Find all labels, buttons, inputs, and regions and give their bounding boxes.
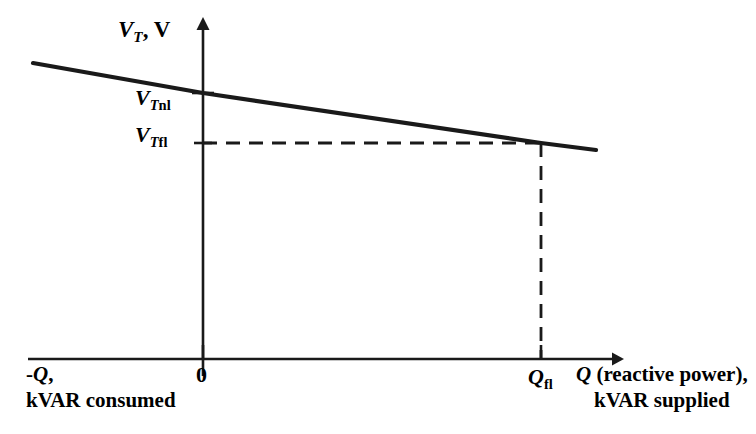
- negative-q-variable: Q: [33, 362, 48, 386]
- vt-no-load-label: VTnl: [135, 87, 171, 112]
- voltage-reactive-power-diagram: VT, V VTnl VTfl 0 Qfl -Q, kVAR consumed …: [0, 0, 756, 434]
- y-axis-title-variable: V: [118, 17, 133, 42]
- negative-q-caption-line2: kVAR consumed: [26, 390, 176, 411]
- vt-fl-subscript-fl: fl: [159, 134, 168, 150]
- positive-q-variable: Q: [576, 362, 591, 386]
- y-axis-title: VT, V: [118, 18, 170, 44]
- positive-q-caption-line1: (reactive power),: [591, 362, 747, 386]
- droop-characteristic-line: [33, 63, 596, 150]
- axes-group: [28, 17, 624, 376]
- y-axis-title-subscript: T: [133, 28, 142, 45]
- y-axis-title-separator: ,: [143, 17, 154, 42]
- vt-nl-variable: V: [135, 85, 150, 110]
- qfl-variable: Q: [528, 364, 544, 389]
- positive-q-caption-line2: kVAR supplied: [594, 390, 748, 411]
- negative-q-comma: ,: [48, 362, 53, 386]
- qfl-subscript: fl: [544, 376, 553, 392]
- y-axis-arrowhead: [197, 17, 210, 30]
- y-axis-title-unit: V: [154, 17, 171, 42]
- vt-fl-variable: V: [135, 122, 150, 147]
- vt-fl-subscript-t: T: [150, 134, 159, 150]
- tick-marks-group: [192, 93, 541, 359]
- vt-nl-subscript-t: T: [150, 97, 159, 113]
- droop-curve-path: [33, 63, 596, 150]
- vt-nl-subscript-nl: nl: [159, 97, 171, 113]
- positive-q-axis-caption: Q (reactive power), kVAR supplied: [576, 364, 748, 411]
- negative-q-axis-caption: -Q, kVAR consumed: [26, 364, 176, 411]
- negative-q-sign: -: [26, 362, 33, 386]
- origin-tick-label: 0: [196, 364, 207, 386]
- vt-full-load-label: VTfl: [135, 124, 167, 149]
- q-full-load-label: Qfl: [528, 366, 553, 391]
- projection-guides-group: [203, 143, 541, 359]
